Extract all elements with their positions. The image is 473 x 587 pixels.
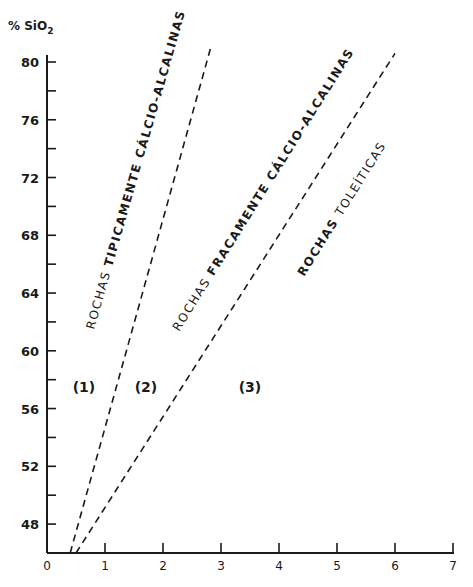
y-tick-label: 72 [21,171,39,186]
label-toleiticas: ROCHAS TOLEÍTICAS [294,139,389,279]
x-tick-label: 1 [101,559,109,573]
region-label-2: (2) [135,379,158,395]
label-tipicamente-calcio-alcalinas: ROCHAS TIPICAMENTE CÁLCIO-ALCALINAS [82,8,188,331]
y-tick-label: 64 [21,286,39,301]
y-tick-label: 52 [21,459,39,474]
y-tick-label: 48 [21,517,39,532]
x-tick-label: 2 [159,559,167,573]
y-tick-label: 68 [21,228,39,243]
y-tick-label: 80 [21,55,39,70]
x-tick-label: 4 [275,559,283,573]
label-fracamente-calcio-alcalinas: ROCHAS FRACAMENTE CÁLCIO-ALCALINAS [169,45,357,334]
chart: % SiO2 485256606468727680 01234567 ROCHA… [0,0,473,587]
x-ticks: 01234567 [43,543,457,573]
boundary-line-2-3 [76,53,395,553]
y-axis-label: % SiO2 [8,19,53,36]
x-tick-label: 5 [333,559,341,573]
y-ticks: 485256606468727680 [21,55,56,532]
y-tick-label: 76 [21,113,39,128]
region-label-1: (1) [73,379,96,395]
y-tick-label: 60 [21,344,39,359]
x-tick-label: 6 [391,559,399,573]
region-label-3: (3) [239,379,262,395]
x-tick-label: 3 [217,559,225,573]
y-tick-label: 56 [21,402,39,417]
x-tick-label: 7 [449,559,457,573]
x-tick-label: 0 [43,559,51,573]
